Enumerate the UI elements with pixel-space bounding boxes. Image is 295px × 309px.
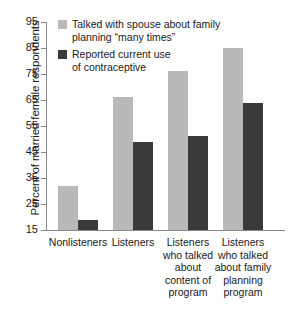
legend-label-line1: Reported current use [72,48,171,60]
y-axis-tick-label: 75 [14,67,38,79]
legend-label-line1: Talked with spouse about family [72,18,220,30]
bar [133,142,153,230]
bar [58,186,78,230]
category-label-line: program [158,286,218,299]
legend-swatch-light-icon [58,20,67,29]
category-label-line: program [213,286,273,299]
y-axis-tick [41,48,47,49]
y-axis-tick-label: 35 [14,171,38,183]
bar [243,103,263,230]
legend-label-line2: of contraceptive [72,61,146,73]
category-label-line: Listeners [213,236,273,249]
y-axis-tick [41,126,47,127]
category-label-line: planning [213,274,273,287]
y-axis-tick-label: 65 [14,93,38,105]
category-label-line: who talked [158,249,218,262]
y-axis-tick [41,22,47,23]
y-axis-tick [41,100,47,101]
y-axis-tick-label: 25 [14,197,38,209]
legend-item-talked-with-spouse: Talked with spouse about family planning… [58,18,273,43]
y-axis-tick [41,204,47,205]
y-axis-tick [41,152,47,153]
bar [78,220,98,230]
y-axis-tick-label: 95 [14,15,38,27]
y-axis-tick-label: 15 [14,223,38,235]
category-label-line: content of [158,274,218,287]
y-axis-tick [41,178,47,179]
legend-label-contraceptive-use: Reported current use of contraceptive [72,48,171,73]
category-label-line: about family [213,261,273,274]
legend-item-contraceptive-use: Reported current use of contraceptive [58,48,273,73]
chart-legend: Talked with spouse about family planning… [58,18,273,78]
bar [113,97,133,230]
legend-swatch-dark-icon [58,50,67,59]
y-axis-tick [41,74,47,75]
x-axis-category-label: Listenerswho talkedabout familyplanningp… [213,236,273,299]
y-axis-tick-label: 55 [14,119,38,131]
x-axis-category-label: Listeners [103,236,163,249]
bar-chart: Percent of married female respondents 15… [0,0,295,309]
category-label-line: Listeners [158,236,218,249]
y-axis-tick-label: 85 [14,41,38,53]
y-axis-tick-label: 45 [14,145,38,157]
category-label-line: Nonlisteners [48,236,108,249]
x-axis-category-label: Nonlisteners [48,236,108,249]
category-label-line: about [158,261,218,274]
bar [168,71,188,230]
legend-label-talked-with-spouse: Talked with spouse about family planning… [72,18,220,43]
x-axis-category-label: Listenerswho talkedaboutcontent ofprogra… [158,236,218,299]
category-label-line: who talked [213,249,273,262]
category-label-line: Listeners [103,236,163,249]
x-axis-line [46,230,285,231]
bar [188,136,208,230]
legend-label-line2: planning “many times” [72,31,175,43]
y-axis-tick [41,230,47,231]
